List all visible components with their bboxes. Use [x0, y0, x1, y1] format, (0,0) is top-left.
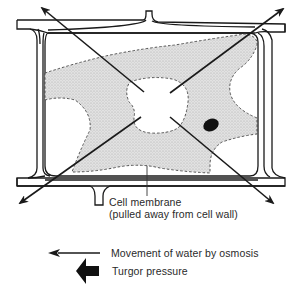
plant-cell-diagram	[0, 0, 302, 284]
thick-arrow-left-icon	[66, 258, 100, 284]
membrane-label-line2: (pulled away from cell wall)	[109, 208, 238, 220]
membrane-label-line1: Cell membrane	[109, 196, 182, 208]
legend-turgor-label: Turgor pressure	[112, 265, 188, 277]
legend-osmosis-label: Movement of water by osmosis	[111, 247, 259, 259]
thin-arrow-left-icon	[48, 249, 100, 257]
